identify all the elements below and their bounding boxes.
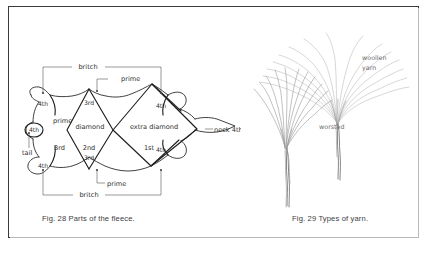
label-diamond: diamond	[76, 123, 105, 131]
label-worsted: worsted	[319, 123, 345, 131]
figure-types-of-yarn: woollen yarn	[241, 7, 419, 239]
label-4th-bottom-right: 4th	[156, 146, 166, 153]
label-britch-top: britch	[78, 63, 97, 71]
label-3rd-left: 3rd	[54, 144, 65, 152]
caption-fig-28: Fig. 28 Parts of the fleece.	[42, 214, 135, 223]
label-4th-top-left: 4th	[38, 100, 48, 107]
label-prime-bottom: prime	[107, 180, 126, 188]
label-prime-left: prime	[53, 117, 72, 125]
label-woollen-line1: woollen	[362, 54, 387, 62]
label-2nd: 2nd	[83, 144, 96, 152]
label-4th-top-right: 4th	[156, 102, 166, 109]
label-3rd-top: 3rd	[84, 99, 94, 106]
label-tail: tail	[22, 149, 32, 157]
label-1st: 1st	[144, 144, 155, 152]
figure-parts-of-the-fleece: britch prime 4th 4th 3rd prime 4th tail …	[9, 7, 241, 239]
label-woollen-line2: yarn	[362, 64, 376, 72]
figure-page: britch prime 4th 4th 3rd prime 4th tail …	[0, 0, 429, 262]
label-4th-tail: 4th	[29, 126, 39, 133]
label-britch-bottom: britch	[79, 191, 98, 199]
caption-fig-29: Fig. 29 Types of yarn.	[292, 214, 368, 223]
worsted-yarn-illustration: worsted	[254, 68, 345, 207]
label-3rd-bottom: 3rd	[84, 154, 94, 161]
label-extra-diamond: extra diamond	[130, 123, 178, 131]
fleece-leader-lines	[28, 67, 213, 195]
label-neck-4th: neck 4th	[214, 126, 241, 134]
yarn-diagram: woollen yarn	[241, 7, 419, 239]
label-prime-top: prime	[121, 75, 140, 83]
fleece-diagram: britch prime 4th 4th 3rd prime 4th tail …	[9, 7, 241, 239]
label-4th-bottom-left: 4th	[38, 162, 48, 169]
woollen-yarn-illustration: woollen yarn	[259, 33, 409, 180]
page-frame: britch prime 4th 4th 3rd prime 4th tail …	[8, 6, 419, 238]
